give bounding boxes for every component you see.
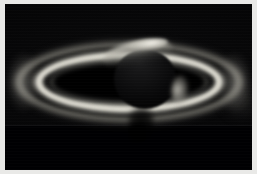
right-ansa [217, 53, 251, 111]
left-ansa [7, 53, 41, 111]
astronomical-image: Grayscale telescopic photograph of Satur… [5, 4, 252, 170]
ring-shadow-notch [131, 124, 143, 140]
photo-frame: Grayscale telescopic photograph of Satur… [0, 0, 257, 174]
